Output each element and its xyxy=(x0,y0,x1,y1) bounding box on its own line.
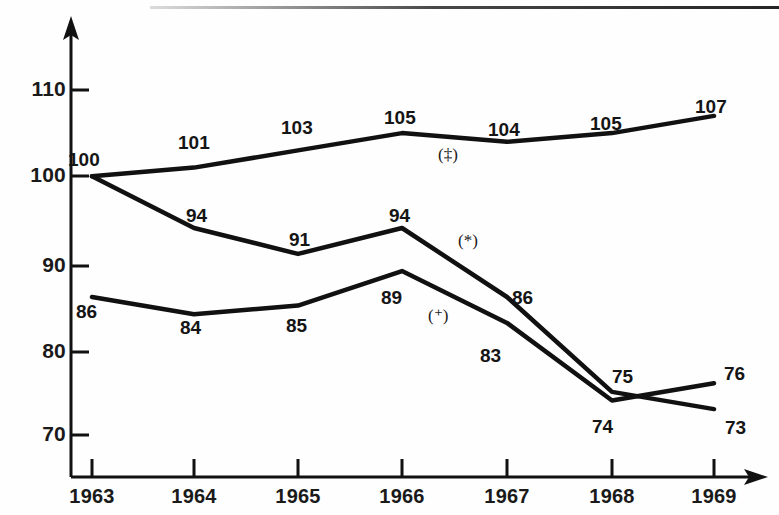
data-label-asterisk-1967: 86 xyxy=(512,287,533,309)
data-label-plus-1964: 84 xyxy=(180,317,201,339)
data-label-plus-1969: 76 xyxy=(724,363,745,385)
data-label-plus-1965: 85 xyxy=(286,315,307,337)
data-label-asterisk-1965: 91 xyxy=(289,229,310,251)
y-axis-label-80: 80 xyxy=(8,339,66,363)
data-label-dagger-1969: 107 xyxy=(695,96,727,118)
data-label-asterisk-1969: 73 xyxy=(725,417,746,439)
y-axis xyxy=(63,16,89,477)
data-label-plus-1968: 74 xyxy=(592,416,613,438)
data-label-dagger-1967: 104 xyxy=(488,119,520,141)
x-axis-label-1965: 1965 xyxy=(257,485,339,508)
chart-figure: 110 100 90 80 70 1963 1964 1965 1966 196… xyxy=(0,0,779,515)
y-axis-label-100: 100 xyxy=(8,163,66,187)
data-label-dagger-1963: 100 xyxy=(68,149,100,171)
data-label-plus-1967: 83 xyxy=(480,345,501,367)
x-axis xyxy=(71,459,768,485)
y-axis-label-70: 70 xyxy=(8,422,66,446)
series-marker-dagger: (‡) xyxy=(438,145,458,165)
data-label-dagger-1968: 105 xyxy=(590,113,622,135)
data-label-asterisk-1964: 94 xyxy=(186,205,207,227)
data-label-asterisk-1968: 75 xyxy=(612,366,633,388)
y-axis-label-110: 110 xyxy=(8,77,66,101)
x-axis-label-1969: 1969 xyxy=(673,485,755,508)
x-axis-label-1964: 1964 xyxy=(153,485,235,508)
data-label-plus-1966: 89 xyxy=(381,287,402,309)
series-marker-plus: (⁺) xyxy=(428,305,448,326)
data-label-dagger-1964: 101 xyxy=(178,132,210,154)
chart-plot-area xyxy=(0,0,779,515)
x-axis-label-1968: 1968 xyxy=(571,485,653,508)
x-axis-label-1966: 1966 xyxy=(361,485,443,508)
data-label-asterisk-1966: 94 xyxy=(389,205,410,227)
series-marker-asterisk: (*) xyxy=(458,231,478,251)
y-axis-label-90: 90 xyxy=(8,253,66,277)
data-label-dagger-1965: 103 xyxy=(281,117,313,139)
data-label-dagger-1966: 105 xyxy=(384,107,416,129)
x-axis-label-1963: 1963 xyxy=(51,485,133,508)
x-axis-label-1967: 1967 xyxy=(466,485,548,508)
data-label-plus-1963: 86 xyxy=(76,301,97,323)
